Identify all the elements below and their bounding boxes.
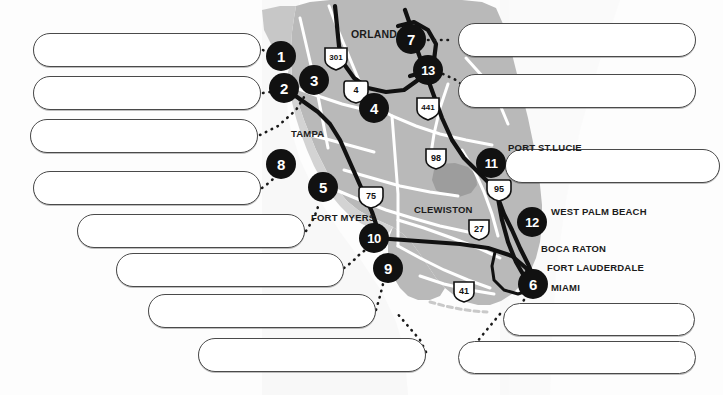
city-tampa: TAMPA	[291, 128, 324, 139]
callout-5[interactable]	[77, 214, 305, 248]
callout-13[interactable]	[458, 74, 696, 108]
city-miami: MIAMI	[551, 282, 580, 293]
shield-75: 75	[361, 187, 381, 206]
map-figure: ORLANDOTAMPAFORT MYERSCLEWISTONPORT ST.L…	[0, 0, 723, 395]
marker-10[interactable]: 10	[359, 223, 389, 253]
callout-3[interactable]	[30, 119, 258, 153]
shield-98: 98	[426, 149, 446, 168]
city-port-st-lucie: PORT ST.LUCIE	[508, 142, 582, 153]
marker-2[interactable]: 2	[269, 73, 299, 103]
marker-7[interactable]: 7	[396, 24, 426, 54]
shield-4-label: 4	[353, 85, 358, 95]
callout-9[interactable]	[148, 294, 376, 328]
callout-7[interactable]	[458, 23, 696, 57]
callout-8[interactable]	[33, 171, 261, 205]
callout-b2[interactable]	[458, 341, 696, 374]
marker-9[interactable]: 9	[373, 253, 403, 283]
shield-441: 441	[417, 97, 439, 117]
city-fort-myers: FORT MYERS	[311, 212, 375, 223]
marker-3[interactable]: 3	[299, 65, 329, 95]
callout-6[interactable]	[503, 303, 695, 336]
city-west-palm-beach: WEST PALM BEACH	[551, 206, 647, 217]
shield-441-label: 441	[421, 103, 434, 112]
city-boca-raton: BOCA RATON	[541, 243, 606, 254]
city-fort-lauderdale: FORT LAUDERDALE	[547, 262, 644, 273]
shield-95-label: 95	[494, 184, 504, 194]
callout-10[interactable]	[116, 253, 344, 287]
shield-95: 95	[489, 180, 509, 199]
shield-301: 301	[325, 47, 347, 67]
marker-12[interactable]: 12	[517, 207, 547, 237]
marker-1[interactable]: 1	[266, 41, 296, 71]
marker-13[interactable]: 13	[413, 55, 443, 85]
shield-41: 41	[454, 282, 474, 301]
callout-11[interactable]	[505, 149, 720, 183]
shield-27-label: 27	[474, 224, 484, 234]
marker-6[interactable]: 6	[518, 269, 548, 299]
shield-98-label: 98	[431, 153, 441, 163]
callout-1[interactable]	[33, 33, 261, 67]
marker-4[interactable]: 4	[359, 93, 389, 123]
marker-8[interactable]: 8	[266, 149, 296, 179]
marker-5[interactable]: 5	[308, 172, 338, 202]
callout-2[interactable]	[33, 76, 261, 110]
shield-301-label: 301	[329, 53, 342, 62]
marker-11[interactable]: 11	[476, 148, 506, 178]
shield-27: 27	[469, 220, 489, 239]
shield-75-label: 75	[366, 191, 376, 201]
city-clewiston: CLEWISTON	[414, 204, 473, 215]
shield-41-label: 41	[459, 286, 469, 296]
callout-b1[interactable]	[198, 338, 426, 372]
